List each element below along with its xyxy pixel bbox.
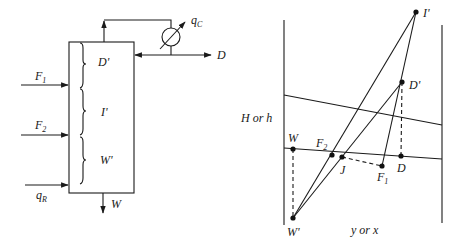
section-label-w-prime: W' <box>100 153 113 167</box>
point-f1 <box>379 163 384 168</box>
dashed-dprime-d <box>401 82 402 156</box>
distillate-label: D <box>216 48 226 62</box>
point-d <box>398 153 403 158</box>
condenser-duty-label: qC <box>191 13 203 29</box>
brace-middle-section <box>80 89 86 135</box>
section-label-i-prime: I' <box>100 105 108 119</box>
point-i-prime <box>413 9 418 14</box>
label-j: J <box>340 163 346 177</box>
enthalpy-concentration-diagram: I' D' W F2 J F1 D W' H or h y or x <box>240 6 442 239</box>
section-label-d-prime: D' <box>97 55 110 69</box>
dashed-j-f1 <box>342 157 382 166</box>
distillation-diagram: D' I' W' qC D F1 F2 qR W <box>0 0 461 243</box>
label-i-prime: I' <box>422 6 430 20</box>
point-w <box>290 146 295 151</box>
saturated-vapor-line <box>284 95 442 125</box>
point-d-prime <box>399 79 404 84</box>
column-schematic: D' I' W' qC D F1 F2 qR W <box>21 13 226 213</box>
x-axis-label: y or x <box>350 223 379 237</box>
condenser-duty-arrow <box>160 22 185 49</box>
line-wprime-iprime <box>293 12 416 218</box>
overhead-pipe <box>104 20 171 28</box>
saturated-liquid-line <box>284 148 442 159</box>
label-w-prime: W' <box>287 225 300 239</box>
brace-bottom-section <box>80 137 86 184</box>
label-d-prime: D' <box>408 78 421 92</box>
label-f1: F1 <box>376 170 388 186</box>
point-j <box>339 154 344 159</box>
point-w-prime <box>290 215 295 220</box>
feed2-label: F2 <box>34 118 46 134</box>
reboiler-duty-label: qR <box>36 188 47 204</box>
brace-top-section <box>80 43 86 88</box>
label-d: D <box>396 161 406 175</box>
bottoms-label: W <box>111 197 122 211</box>
y-axis-label: H or h <box>240 111 272 125</box>
label-w: W <box>288 131 299 145</box>
label-f2: F2 <box>315 136 327 152</box>
point-f2 <box>329 152 334 157</box>
feed1-label: F1 <box>34 69 46 85</box>
